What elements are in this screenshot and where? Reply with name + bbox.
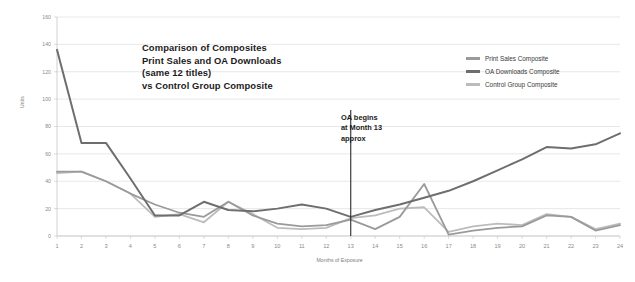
y-tick-label: 80 xyxy=(45,123,51,129)
y-tick-label: 0 xyxy=(48,233,51,239)
y-tick-label: 140 xyxy=(42,41,51,47)
x-tick-label: 23 xyxy=(592,243,598,249)
x-tick-label: 4 xyxy=(129,243,132,249)
chart-title-line-1: Comparison of Composites xyxy=(142,42,281,55)
y-tick-label: 40 xyxy=(45,178,51,184)
y-tick-label: 160 xyxy=(42,14,51,20)
x-tick-label: 11 xyxy=(299,243,305,249)
oa-start-annotation: OA begins at Month 13 approx xyxy=(341,113,382,144)
x-tick-label: 12 xyxy=(323,243,329,249)
y-tick-labels-group: 020406080100120140160 xyxy=(42,14,51,239)
y-axis-title: Units xyxy=(19,68,25,108)
x-tick-label: 1 xyxy=(55,243,58,249)
x-tick-label: 5 xyxy=(153,243,156,249)
x-tick-label: 14 xyxy=(372,243,378,249)
x-tick-label: 2 xyxy=(80,243,83,249)
x-axis-title: Months of Exposure xyxy=(317,257,363,263)
annotation-line-1: OA begins xyxy=(341,113,382,123)
x-tick-label: 3 xyxy=(104,243,107,249)
x-tick-label: 10 xyxy=(274,243,280,249)
legend-label: Print Sales Composite xyxy=(485,55,548,62)
annotation-line-2: at Month 13 xyxy=(341,123,382,133)
line-chart-svg: 020406080100120140160 123456789101112131… xyxy=(0,0,635,282)
legend-item[interactable]: Print Sales Composite xyxy=(466,52,560,65)
x-tick-label: 17 xyxy=(446,243,452,249)
legend-swatch-icon xyxy=(466,57,480,59)
x-tick-label: 19 xyxy=(494,243,500,249)
annotation-line-3: approx xyxy=(341,134,382,144)
legend-item[interactable]: OA Downloads Composite xyxy=(466,65,560,78)
chart-title-line-2: Print Sales and OA Downloads xyxy=(142,55,281,68)
x-tick-marks-group xyxy=(57,236,620,239)
legend-item[interactable]: Control Group Composite xyxy=(466,78,560,91)
x-tick-label: 9 xyxy=(251,243,254,249)
legend-swatch-icon xyxy=(466,70,480,72)
x-tick-label: 7 xyxy=(202,243,205,249)
y-tick-label: 120 xyxy=(42,69,51,75)
y-tick-label: 20 xyxy=(45,206,51,212)
x-tick-label: 18 xyxy=(470,243,476,249)
x-tick-label: 13 xyxy=(348,243,354,249)
legend-label: OA Downloads Composite xyxy=(485,68,560,75)
x-tick-label: 21 xyxy=(543,243,549,249)
x-tick-label: 24 xyxy=(617,243,623,249)
x-tick-label: 20 xyxy=(519,243,525,249)
x-tick-label: 22 xyxy=(568,243,574,249)
y-tick-label: 100 xyxy=(42,96,51,102)
legend-label: Control Group Composite xyxy=(485,81,557,88)
chart-title-line-4: vs Control Group Composite xyxy=(142,80,281,93)
x-tick-label: 6 xyxy=(178,243,181,249)
legend-swatch-icon xyxy=(466,83,480,85)
chart-legend: Print Sales CompositeOA Downloads Compos… xyxy=(466,52,560,91)
y-tick-label: 60 xyxy=(45,151,51,157)
x-tick-label: 16 xyxy=(421,243,427,249)
chart-title-block: Comparison of Composites Print Sales and… xyxy=(142,42,281,92)
x-tick-label: 8 xyxy=(227,243,230,249)
chart-container: 020406080100120140160 123456789101112131… xyxy=(0,0,635,282)
x-tick-labels-group: 123456789101112131415161718192021222324 xyxy=(55,243,623,249)
chart-title-line-3: (same 12 titles) xyxy=(142,67,281,80)
x-tick-label: 15 xyxy=(397,243,403,249)
